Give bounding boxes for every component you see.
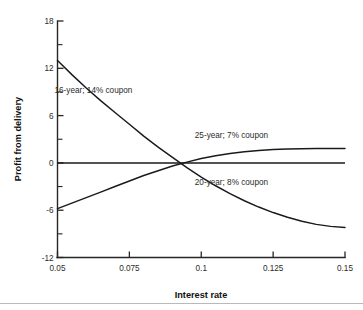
x-tick-label: 0.05 — [50, 264, 66, 273]
profit-from-delivery-chart: 181260-6-12 0.050.0750.10.1250.15 16-yea… — [0, 0, 363, 310]
y-tick-label: -6 — [46, 206, 54, 215]
x-axis-title: Interest rate — [175, 290, 228, 300]
x-tick-label: 0.15 — [337, 264, 353, 273]
y-tick-label: 18 — [44, 17, 54, 26]
x-tick-label: 0.125 — [263, 264, 284, 273]
y-tick-label: 0 — [49, 159, 54, 168]
y-tick-label: 6 — [49, 112, 54, 121]
y-tick-label: 12 — [44, 64, 54, 73]
y-tick-label: -12 — [42, 254, 54, 263]
y-axis-title: Profit from delivery — [13, 96, 23, 181]
series-label: 25-year; 7% coupon — [195, 131, 269, 140]
series-label: 20-year; 8% coupon — [195, 178, 269, 187]
series-label: 16-year; 14% coupon — [55, 86, 133, 95]
x-tick-label: 0.1 — [196, 264, 208, 273]
x-tick-label: 0.075 — [119, 264, 140, 273]
